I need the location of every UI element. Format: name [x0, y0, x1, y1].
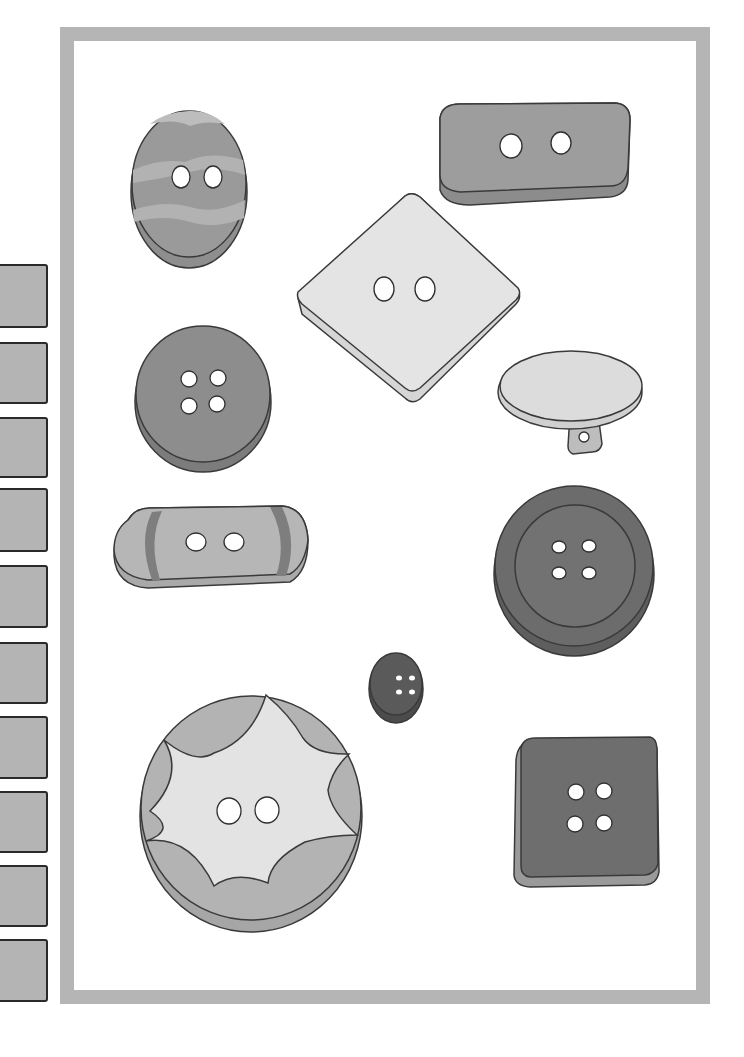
rectangular-button	[440, 103, 630, 205]
large-rimmed-button	[494, 486, 654, 656]
buttons-illustration: .ol { stroke:#3a3a3a; stroke-width:1.5; …	[0, 0, 744, 1057]
diamond-button	[298, 194, 520, 402]
capsule-button	[114, 506, 308, 588]
shank-button	[498, 351, 642, 454]
square-four-hole-button	[514, 737, 659, 887]
star-pattern-button	[140, 695, 362, 932]
round-four-hole-button	[135, 326, 271, 472]
small-dark-button	[369, 653, 423, 723]
oval-striped-button	[131, 111, 247, 268]
